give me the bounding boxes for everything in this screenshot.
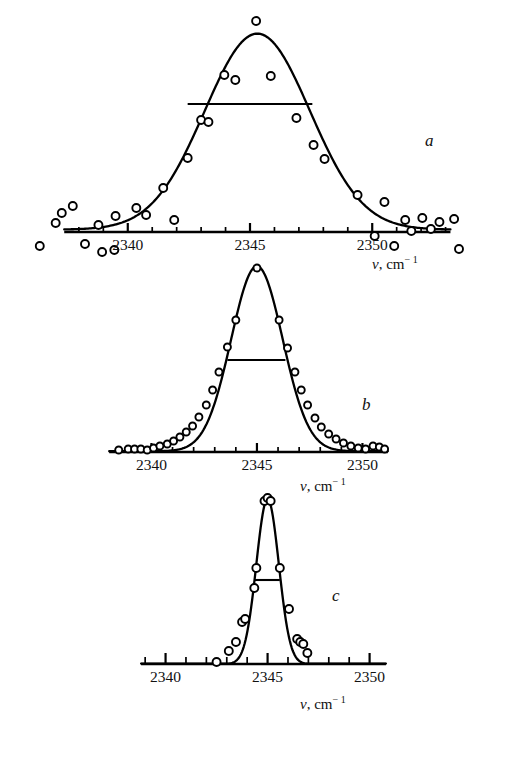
data-point [267,497,275,505]
noise-point [418,214,426,222]
axis-unit-exponent: − 1 [405,254,418,265]
x-axis-label: v, cm− 1 [300,694,346,713]
data-point [380,198,388,206]
data-point [252,17,260,25]
data-point [231,76,239,84]
data-point [94,221,102,229]
data-point [276,564,284,572]
data-point [195,414,202,421]
data-point [220,71,228,79]
data-point [112,212,120,220]
data-point [132,204,140,212]
data-point [252,564,260,572]
data-point [204,118,212,126]
data-point [209,387,216,394]
data-point [362,446,369,453]
data-point [267,72,275,80]
noise-point [69,202,77,210]
data-point [215,369,222,376]
data-point [232,638,240,646]
data-point [381,446,388,453]
data-point [292,114,300,122]
panel-letter-a: a [425,131,434,151]
data-point [303,649,311,657]
data-point [401,216,409,224]
data-point [241,615,249,623]
x-axis-label: v, cm− 1 [300,476,346,495]
data-point [355,445,362,452]
axis-unit-text: , cm [379,256,405,272]
axis-unit-text: , cm [307,696,333,712]
x-tick-label: 2345 [235,236,266,254]
noise-point [52,219,60,227]
data-point [284,345,291,352]
data-point [304,402,311,409]
x-axis-label: v, cm− 1 [372,254,418,273]
data-point [340,440,347,447]
data-point [159,184,167,192]
data-point [310,141,318,149]
data-point [347,443,354,450]
x-tick-label: 2350 [347,456,378,474]
noise-point [81,240,89,248]
noise-point [407,227,415,235]
data-point [232,317,239,324]
x-tick-label: 2350 [354,668,385,686]
data-point [325,431,332,438]
axis-symbol-nu: v [300,478,307,494]
spectral-line-figure [0,0,507,768]
x-tick-label: 2345 [252,668,283,686]
x-tick-label: 2340 [112,236,143,254]
axis-symbol-nu: v [300,696,307,712]
noise-point [450,215,458,223]
data-point [276,317,283,324]
axis-symbol-nu: v [372,256,379,272]
data-point [156,443,163,450]
data-point [318,424,325,431]
axis-unit-text: , cm [307,478,333,494]
data-point [224,344,231,351]
axis-unit-exponent: − 1 [333,476,346,487]
data-point [176,434,183,441]
x-tick-label: 2340 [136,456,167,474]
data-point [250,584,258,592]
data-point [427,225,435,233]
data-point [311,415,318,422]
noise-point [36,242,44,250]
x-tick-label: 2345 [241,456,272,474]
noise-point [455,245,463,253]
data-point [333,436,340,443]
panel-letter-b: b [362,395,371,415]
data-point [115,447,122,454]
data-point [183,429,190,436]
data-point [203,402,210,409]
noise-point [98,248,106,256]
noise-point [170,216,178,224]
x-tick-label: 2340 [150,668,181,686]
data-point [298,387,305,394]
data-point [354,191,362,199]
noise-point [58,209,66,217]
noise-point [435,218,443,226]
panel-letter-c: c [332,586,340,606]
noise-point [390,242,398,250]
data-point [184,154,192,162]
data-point [321,155,329,163]
data-point [213,658,221,666]
data-point [189,423,196,430]
data-point [253,265,260,272]
axis-unit-exponent: − 1 [333,694,346,705]
x-tick-label: 2350 [357,236,388,254]
data-point [299,640,307,648]
data-point [142,211,150,219]
data-point [225,647,233,655]
data-point [285,605,293,613]
figure-background [0,0,507,768]
data-point [291,369,298,376]
